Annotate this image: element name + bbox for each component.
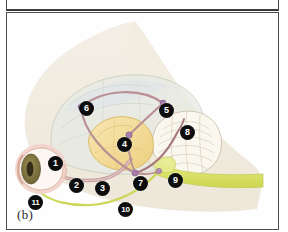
callout-3[interactable]: 3	[95, 181, 110, 196]
callout-10[interactable]: 10	[118, 202, 133, 217]
callout-1[interactable]: 1	[48, 156, 63, 171]
callout-9[interactable]: 9	[168, 173, 183, 188]
figure-root: 1 2 3 4 5 6 7 8 9 10 11 (b)	[0, 0, 288, 232]
anatomy-svg	[7, 13, 278, 229]
figure-caption: (b)	[17, 207, 33, 223]
figure-frame: 1 2 3 4 5 6 7 8 9 10 11 (b)	[6, 12, 279, 230]
callout-6[interactable]: 6	[79, 101, 94, 116]
callout-8[interactable]: 8	[180, 125, 195, 140]
callout-7[interactable]: 7	[133, 176, 148, 191]
callout-4[interactable]: 4	[117, 137, 132, 152]
callout-5[interactable]: 5	[159, 103, 174, 118]
callout-2[interactable]: 2	[69, 178, 84, 193]
panel-above-border	[6, 0, 279, 11]
anatomy-illustration: 1 2 3 4 5 6 7 8 9 10 11	[7, 13, 278, 229]
